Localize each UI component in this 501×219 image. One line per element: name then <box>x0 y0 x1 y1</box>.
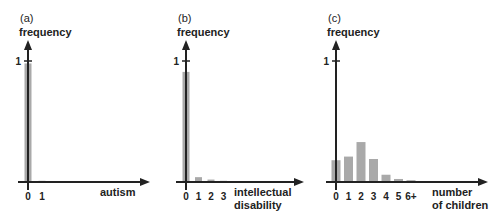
y-tick-label: 1 <box>323 56 329 67</box>
x-axis-label: intellectual <box>234 186 291 198</box>
x-axis-label: number <box>432 186 473 198</box>
x-tick-label: 4 <box>383 191 389 202</box>
y-axis-arrow-icon <box>332 40 340 50</box>
x-tick-label: 6+ <box>405 191 417 202</box>
y-axis-arrow-icon <box>182 40 190 50</box>
y-axis-label: frequency <box>177 26 230 38</box>
y-tick-label: 1 <box>173 56 179 67</box>
chart-panel-1: (a)frequency011autism <box>15 12 150 202</box>
x-tick-label: 5 <box>396 191 402 202</box>
x-tick-label: 2 <box>358 191 364 202</box>
x-axis-arrow-icon <box>294 178 304 186</box>
bar-4 <box>382 175 391 182</box>
x-axis-arrow-icon <box>478 178 488 186</box>
x-tick-label: 3 <box>371 191 377 202</box>
y-tick-label: 1 <box>15 56 21 67</box>
chart-panel-2: (b)frequency01231intellectualdisability <box>173 12 304 211</box>
y-axis-label: frequency <box>327 26 380 38</box>
panel-label: (a) <box>20 12 33 24</box>
chart-figure: (a)frequency011autism(b)frequency01231in… <box>0 0 501 219</box>
x-tick-label: 0 <box>183 191 189 202</box>
x-axis-label: autism <box>100 186 136 198</box>
bar-3 <box>369 159 378 182</box>
x-tick-label: 0 <box>333 191 339 202</box>
y-axis-label: frequency <box>19 26 72 38</box>
x-tick-label: 3 <box>221 191 227 202</box>
y-axis-arrow-icon <box>24 40 32 50</box>
x-axis-label: disability <box>234 199 283 211</box>
panel-label: (c) <box>328 12 341 24</box>
bar-1 <box>344 157 353 182</box>
x-axis-arrow-icon <box>140 178 150 186</box>
x-tick-label: 1 <box>196 191 202 202</box>
x-tick-label: 0 <box>25 191 31 202</box>
x-tick-label: 1 <box>39 191 45 202</box>
bar-2 <box>357 142 366 182</box>
panel-label: (b) <box>178 12 191 24</box>
x-tick-label: 2 <box>208 191 214 202</box>
x-axis-label: of children <box>432 199 489 211</box>
chart-panel-3: (c)frequency0123456+1numberof children <box>323 12 488 211</box>
x-tick-label: 1 <box>346 191 352 202</box>
